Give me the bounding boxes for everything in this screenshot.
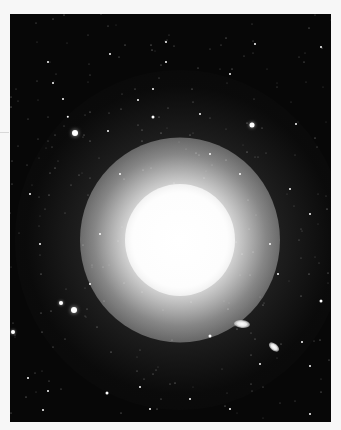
faint-star bbox=[111, 352, 112, 353]
faint-star bbox=[162, 309, 163, 310]
faint-star bbox=[41, 312, 42, 313]
faint-star bbox=[225, 159, 226, 160]
faint-star bbox=[212, 165, 213, 166]
faint-star bbox=[81, 173, 82, 174]
faint-star bbox=[314, 14, 315, 15]
faint-star bbox=[36, 41, 37, 42]
faint-star bbox=[253, 41, 254, 42]
faint-star bbox=[236, 413, 237, 414]
faint-star bbox=[255, 338, 256, 339]
faint-star bbox=[66, 42, 67, 43]
faint-star bbox=[37, 99, 38, 100]
faint-star bbox=[309, 27, 310, 28]
faint-star bbox=[38, 157, 39, 158]
faint-star bbox=[242, 254, 243, 255]
faint-star bbox=[237, 328, 238, 329]
faint-star bbox=[88, 63, 89, 64]
faint-star bbox=[57, 160, 58, 161]
faint-star bbox=[327, 273, 328, 274]
faint-star bbox=[48, 140, 49, 141]
faint-star bbox=[227, 82, 228, 83]
faint-star bbox=[37, 80, 38, 81]
faint-star bbox=[12, 160, 13, 161]
faint-star bbox=[87, 81, 88, 82]
faint-star bbox=[308, 273, 309, 274]
faint-star bbox=[40, 273, 41, 274]
faint-star bbox=[137, 124, 138, 125]
star bbox=[239, 173, 241, 175]
faint-star bbox=[109, 113, 110, 114]
faint-star bbox=[42, 370, 43, 371]
faint-star bbox=[117, 241, 118, 242]
faint-star bbox=[10, 97, 11, 98]
faint-star bbox=[11, 413, 12, 414]
faint-star bbox=[263, 302, 264, 303]
faint-star bbox=[83, 134, 84, 135]
faint-star bbox=[207, 234, 208, 235]
faint-star bbox=[119, 56, 120, 57]
faint-star bbox=[169, 185, 170, 186]
faint-star bbox=[63, 15, 64, 16]
faint-star bbox=[70, 185, 71, 186]
faint-star bbox=[90, 141, 91, 142]
faint-star bbox=[18, 100, 19, 101]
faint-star bbox=[185, 148, 186, 149]
faint-star bbox=[303, 61, 304, 62]
faint-star bbox=[262, 418, 263, 419]
faint-star bbox=[234, 326, 235, 327]
faint-star bbox=[197, 67, 198, 68]
faint-star bbox=[203, 177, 204, 178]
faint-star bbox=[262, 127, 263, 128]
faint-star bbox=[39, 226, 40, 227]
faint-star bbox=[318, 262, 319, 263]
faint-star bbox=[92, 266, 93, 267]
faint-star bbox=[134, 89, 135, 90]
faint-star bbox=[190, 134, 191, 135]
star bbox=[199, 113, 201, 115]
faint-star bbox=[251, 383, 252, 384]
faint-star bbox=[122, 226, 123, 227]
faint-star bbox=[121, 412, 122, 413]
faint-star bbox=[250, 333, 251, 334]
faint-star bbox=[88, 194, 89, 195]
faint-star bbox=[276, 82, 277, 83]
faint-star bbox=[10, 212, 11, 213]
faint-star bbox=[228, 302, 229, 303]
faint-star bbox=[221, 368, 222, 369]
faint-star bbox=[40, 254, 41, 255]
faint-star bbox=[300, 295, 301, 296]
faint-star bbox=[305, 53, 306, 54]
faint-star bbox=[210, 49, 211, 50]
faint-star bbox=[293, 206, 294, 207]
faint-star bbox=[243, 56, 244, 57]
star bbox=[27, 377, 29, 379]
faint-star bbox=[246, 122, 247, 123]
faint-star bbox=[159, 116, 160, 117]
faint-star bbox=[64, 338, 65, 339]
faint-star bbox=[276, 358, 277, 359]
faint-star bbox=[230, 256, 231, 257]
faint-star bbox=[101, 14, 102, 15]
faint-star bbox=[137, 370, 138, 371]
faint-star bbox=[90, 74, 91, 75]
faint-star bbox=[157, 367, 158, 368]
star bbox=[109, 53, 111, 55]
faint-star bbox=[313, 341, 314, 342]
faint-star bbox=[179, 142, 180, 143]
faint-star bbox=[82, 244, 83, 245]
star bbox=[99, 233, 101, 235]
faint-star bbox=[255, 157, 256, 158]
faint-star bbox=[173, 182, 174, 183]
faint-star bbox=[137, 357, 138, 358]
faint-star bbox=[157, 224, 158, 225]
faint-star bbox=[41, 331, 42, 332]
faint-star bbox=[154, 193, 155, 194]
faint-star bbox=[209, 117, 210, 118]
faint-star bbox=[166, 40, 167, 41]
faint-star bbox=[199, 154, 200, 155]
faint-star bbox=[26, 164, 27, 165]
faint-star bbox=[12, 322, 13, 323]
faint-star bbox=[249, 275, 250, 276]
faint-star bbox=[156, 369, 157, 370]
faint-star bbox=[248, 200, 249, 201]
